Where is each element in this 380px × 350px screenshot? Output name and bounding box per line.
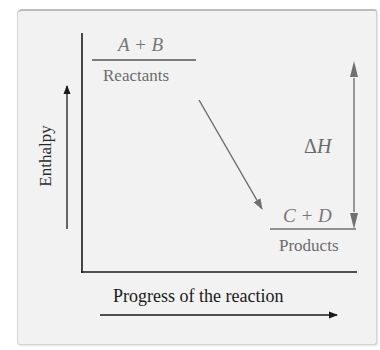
enthalpy-variable: H (317, 135, 331, 157)
delta-symbol: Δ (304, 135, 317, 157)
delta-h-label: ΔH (304, 136, 331, 156)
reaction-path-arrow-icon (199, 100, 262, 209)
reactants-formula: A + B (118, 35, 163, 54)
y-axis-title: Enthalpy (36, 125, 56, 186)
x-axis-title: Progress of the reaction (113, 287, 283, 305)
reactants-label: Reactants (103, 67, 169, 84)
products-formula: C + D (283, 206, 332, 225)
products-label: Products (279, 237, 339, 254)
delta-h-double-arrow-icon (350, 61, 358, 229)
